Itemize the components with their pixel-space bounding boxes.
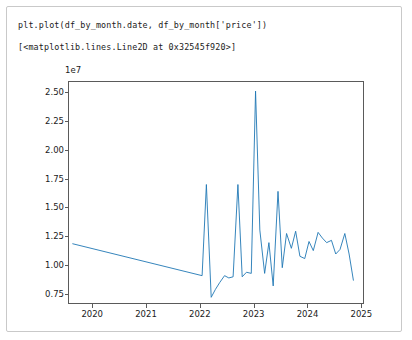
y-axis-tick-labels: 0.751.001.251.501.752.002.252.50 <box>15 81 64 304</box>
x-tick-label: 2022 <box>189 309 211 319</box>
y-tick-label: 0.75 <box>18 289 64 299</box>
x-tick-label: 2024 <box>297 309 319 319</box>
y-tick-label: 1.00 <box>18 260 64 270</box>
x-tick-mark <box>200 304 201 308</box>
x-tick-mark <box>92 304 93 308</box>
y-tick-label: 1.50 <box>18 202 64 212</box>
x-tick-mark <box>254 304 255 308</box>
x-tick-label: 2021 <box>135 309 157 319</box>
y-tick-label: 1.75 <box>18 174 64 184</box>
y-tick-label: 2.00 <box>18 145 64 155</box>
x-tick-label: 2020 <box>81 309 103 319</box>
screenshot-root: plt.plot(df_by_month.date, df_by_month['… <box>0 0 412 340</box>
code-output-line: [<matplotlib.lines.Line2D at 0x32545f920… <box>18 42 236 53</box>
y-axis-offset-label: 1e7 <box>65 65 81 75</box>
x-tick-mark <box>307 304 308 308</box>
plot-line-svg <box>69 82 363 303</box>
x-axis-tick-labels: 202020212022202320242025 <box>68 309 364 323</box>
y-tick-label: 2.25 <box>18 116 64 126</box>
x-tick-label: 2023 <box>243 309 265 319</box>
x-tick-mark <box>146 304 147 308</box>
price-line-series <box>73 91 354 297</box>
code-input-line: plt.plot(df_by_month.date, df_by_month['… <box>18 20 267 31</box>
plot-axes-frame <box>68 81 364 304</box>
y-tick-label: 1.25 <box>18 231 64 241</box>
x-tick-label: 2025 <box>350 309 372 319</box>
x-axis-tick-marks <box>68 304 364 309</box>
x-tick-mark <box>361 304 362 308</box>
matplotlib-figure: 1e7 0.751.001.251.501.752.002.252.50 202… <box>15 59 395 327</box>
y-tick-label: 2.50 <box>18 87 64 97</box>
notebook-output-cell: plt.plot(df_by_month.date, df_by_month['… <box>6 6 402 332</box>
